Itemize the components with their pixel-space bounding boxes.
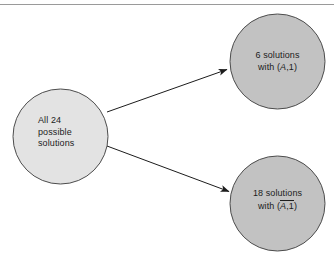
edge-source-to-target-bottom: [107, 146, 229, 192]
diagram-canvas: [0, 0, 334, 258]
node-target-top-circle[interactable]: [230, 14, 325, 109]
node-source-circle[interactable]: [13, 89, 108, 184]
diagram-page: All 24 possible solutions 6 solutions wi…: [0, 0, 334, 258]
edge-source-to-target-top: [107, 70, 227, 113]
node-target-bottom-circle[interactable]: [230, 156, 325, 251]
